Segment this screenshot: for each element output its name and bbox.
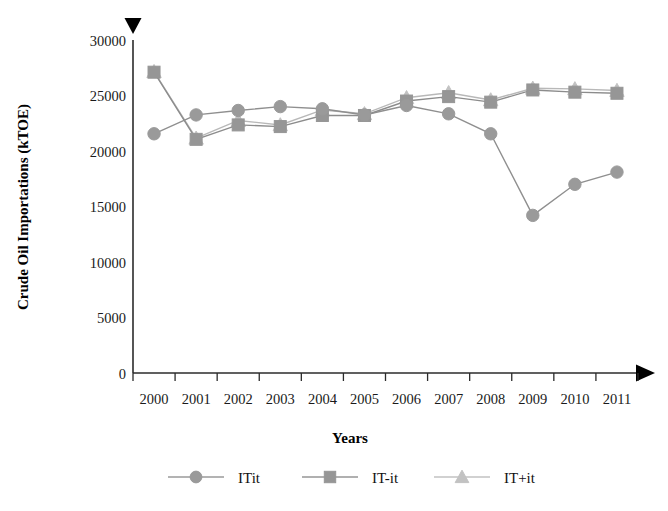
chart-legend: ITitIT-itIT+it (168, 470, 536, 486)
series-line (154, 105, 617, 215)
chart-figure: Crude Oil Importations (kTOE) 0500010000… (0, 0, 668, 511)
square-marker (148, 66, 160, 78)
y-tick-label: 15000 (90, 199, 126, 215)
legend-label: IT-it (372, 470, 399, 486)
circle-marker (442, 108, 454, 120)
x-axis-tick-labels: 2000200120022003200420052006200720082009… (140, 391, 632, 407)
square-marker (569, 86, 581, 98)
circle-marker (232, 104, 244, 116)
x-tick-label: 2002 (224, 391, 253, 407)
x-tick-label: 2010 (560, 391, 589, 407)
x-tick-label: 2011 (603, 391, 631, 407)
x-tick-label: 2000 (140, 391, 169, 407)
legend-item-ITit[interactable]: ITit (168, 470, 261, 486)
series-line (154, 72, 617, 139)
y-tick-label: 30000 (90, 33, 126, 49)
x-tick-label: 2004 (308, 391, 338, 407)
x-tick-label: 2007 (434, 391, 463, 407)
plot-area (147, 64, 624, 221)
y-axis-title: Crude Oil Importations (kTOE) (15, 104, 32, 310)
circle-marker (190, 109, 202, 121)
circle-marker (190, 471, 202, 483)
y-tick-label: 10000 (90, 255, 126, 271)
square-marker (190, 133, 202, 145)
y-axis-ticks: 050001000015000200002500030000 (90, 33, 126, 382)
legend-label: IT+it (504, 470, 536, 486)
x-axis-title: Years (332, 430, 368, 446)
y-tick-label: 0 (119, 366, 126, 382)
square-marker (324, 471, 335, 482)
square-marker (611, 87, 623, 99)
y-tick-label: 20000 (90, 144, 126, 160)
y-tick-label: 25000 (90, 88, 126, 104)
y-tick-label: 5000 (97, 310, 126, 326)
square-marker (232, 119, 244, 131)
square-marker (274, 121, 286, 133)
legend-item-IT+it[interactable]: IT+it (434, 470, 536, 486)
legend-item-IT-it[interactable]: IT-it (302, 470, 399, 486)
right-arrow-marker (636, 365, 655, 382)
circle-marker (358, 109, 370, 121)
up-arrow-marker (125, 18, 142, 34)
circle-marker (527, 209, 539, 221)
x-tick-label: 2001 (182, 391, 211, 407)
circle-marker (400, 99, 412, 111)
x-tick-label: 2005 (350, 391, 379, 407)
circle-marker (316, 103, 328, 115)
x-tick-label: 2009 (518, 391, 547, 407)
circle-marker (569, 178, 581, 190)
x-tick-label: 2003 (266, 391, 295, 407)
square-marker (443, 91, 455, 103)
x-tick-label: 2008 (476, 391, 505, 407)
x-tick-label: 2006 (392, 391, 421, 407)
circle-marker (611, 166, 623, 178)
circle-marker (274, 100, 286, 112)
line-chart: Crude Oil Importations (kTOE) 0500010000… (0, 0, 668, 511)
circle-marker (148, 128, 160, 140)
series-ITit (148, 99, 623, 221)
square-marker (485, 96, 497, 108)
x-axis-ticks (133, 373, 638, 381)
legend-label: ITit (238, 470, 261, 486)
square-marker (527, 84, 539, 96)
circle-marker (485, 128, 497, 140)
